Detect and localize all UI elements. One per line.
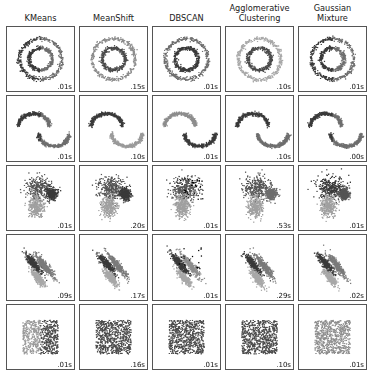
panel-wrap: .53s bbox=[223, 163, 296, 233]
panel-wrap: .17s bbox=[77, 233, 150, 303]
panel-wrap: .01s bbox=[4, 24, 77, 94]
column-header-agglomerative: Agglomerative Clustering bbox=[223, 0, 296, 24]
scatter-panel-uniform-noise-gaussian-mixture: .01s bbox=[298, 304, 367, 371]
grid-row-uniform-noise: .01s .16s .01s .10s .01s bbox=[4, 302, 369, 372]
timing-label: .02s bbox=[349, 292, 364, 300]
scatter-panel-noisy-circles-agglomerative: .10s bbox=[225, 26, 294, 93]
scatter-panel-aniso-blobs-dbscan: .01s bbox=[152, 234, 221, 301]
panel-wrap: .01s bbox=[296, 302, 369, 372]
panel-wrap: .01s bbox=[296, 24, 369, 94]
timing-label: .01s bbox=[203, 361, 218, 369]
column-header-gaussian-mixture: Gaussian Mixture bbox=[296, 0, 369, 24]
panel-wrap: .00s bbox=[296, 94, 369, 164]
scatter-panel-uniform-noise-meanshift: .16s bbox=[79, 304, 148, 371]
timing-label: .15s bbox=[130, 83, 145, 91]
timing-label: .01s bbox=[203, 222, 218, 230]
panel-wrap: .09s bbox=[4, 233, 77, 303]
scatter-panel-aniso-blobs-agglomerative: .29s bbox=[225, 234, 294, 301]
timing-label: .10s bbox=[276, 153, 291, 161]
timing-label: .16s bbox=[130, 361, 145, 369]
panel-wrap: .01s bbox=[150, 233, 223, 303]
scatter-panel-varied-blobs-gaussian-mixture: .01s bbox=[298, 165, 367, 232]
scatter-panel-varied-blobs-agglomerative: .53s bbox=[225, 165, 294, 232]
grid-row-varied-blobs: .01s .20s .01s .53s .01s bbox=[4, 163, 369, 233]
timing-label: .10s bbox=[276, 361, 291, 369]
scatter-panel-aniso-blobs-kmeans: .09s bbox=[6, 234, 75, 301]
timing-label: .10s bbox=[276, 83, 291, 91]
timing-label: .01s bbox=[57, 153, 72, 161]
column-header-kmeans: KMeans bbox=[4, 0, 77, 24]
timing-label: .01s bbox=[349, 361, 364, 369]
panel-wrap: .01s bbox=[150, 24, 223, 94]
timing-label: .01s bbox=[57, 361, 72, 369]
timing-label: .01s bbox=[349, 83, 364, 91]
grid-row-aniso-blobs: .09s .17s .01s .29s .02s bbox=[4, 233, 369, 303]
scatter-panel-noisy-moons-kmeans: .01s bbox=[6, 95, 75, 162]
panel-wrap: .16s bbox=[77, 302, 150, 372]
timing-label: .01s bbox=[203, 83, 218, 91]
panel-wrap: .01s bbox=[4, 94, 77, 164]
panel-wrap: .01s bbox=[150, 302, 223, 372]
scatter-panel-uniform-noise-kmeans: .01s bbox=[6, 304, 75, 371]
panel-grid: .01s .15s .01s .10s .01s .01s .10s .01s … bbox=[4, 24, 369, 372]
scatter-panel-noisy-moons-meanshift: .10s bbox=[79, 95, 148, 162]
timing-label: .53s bbox=[276, 222, 291, 230]
scatter-panel-noisy-moons-gaussian-mixture: .00s bbox=[298, 95, 367, 162]
scatter-panel-aniso-blobs-gaussian-mixture: .02s bbox=[298, 234, 367, 301]
panel-wrap: .10s bbox=[223, 94, 296, 164]
panel-wrap: .29s bbox=[223, 233, 296, 303]
panel-wrap: .01s bbox=[4, 302, 77, 372]
panel-wrap: .01s bbox=[150, 163, 223, 233]
column-header-row: KMeans MeanShift DBSCAN Agglomerative Cl… bbox=[4, 0, 369, 24]
panel-wrap: .15s bbox=[77, 24, 150, 94]
panel-wrap: .20s bbox=[77, 163, 150, 233]
timing-label: .17s bbox=[130, 292, 145, 300]
panel-wrap: .01s bbox=[4, 163, 77, 233]
timing-label: .01s bbox=[57, 222, 72, 230]
scatter-panel-noisy-circles-dbscan: .01s bbox=[152, 26, 221, 93]
timing-label: .09s bbox=[57, 292, 72, 300]
grid-row-noisy-moons: .01s .10s .01s .10s .00s bbox=[4, 94, 369, 164]
grid-row-noisy-circles: .01s .15s .01s .10s .01s bbox=[4, 24, 369, 94]
scatter-panel-varied-blobs-meanshift: .20s bbox=[79, 165, 148, 232]
scatter-panel-aniso-blobs-meanshift: .17s bbox=[79, 234, 148, 301]
panel-wrap: .10s bbox=[223, 24, 296, 94]
scatter-panel-noisy-moons-dbscan: .01s bbox=[152, 95, 221, 162]
panel-wrap: .01s bbox=[296, 163, 369, 233]
timing-label: .01s bbox=[349, 222, 364, 230]
timing-label: .29s bbox=[276, 292, 291, 300]
timing-label: .20s bbox=[130, 222, 145, 230]
timing-label: .00s bbox=[349, 153, 364, 161]
timing-label: .10s bbox=[130, 153, 145, 161]
scatter-panel-varied-blobs-dbscan: .01s bbox=[152, 165, 221, 232]
scatter-panel-noisy-circles-gaussian-mixture: .01s bbox=[298, 26, 367, 93]
scatter-panel-uniform-noise-dbscan: .01s bbox=[152, 304, 221, 371]
scatter-panel-uniform-noise-agglomerative: .10s bbox=[225, 304, 294, 371]
panel-wrap: .02s bbox=[296, 233, 369, 303]
timing-label: .01s bbox=[203, 153, 218, 161]
column-header-meanshift: MeanShift bbox=[77, 0, 150, 24]
column-header-dbscan: DBSCAN bbox=[150, 0, 223, 24]
timing-label: .01s bbox=[203, 292, 218, 300]
panel-wrap: .10s bbox=[77, 94, 150, 164]
panel-wrap: .10s bbox=[223, 302, 296, 372]
panel-wrap: .01s bbox=[150, 94, 223, 164]
scatter-panel-noisy-circles-kmeans: .01s bbox=[6, 26, 75, 93]
scatter-panel-noisy-circles-meanshift: .15s bbox=[79, 26, 148, 93]
clustering-comparison-figure: KMeans MeanShift DBSCAN Agglomerative Cl… bbox=[0, 0, 373, 374]
timing-label: .01s bbox=[57, 83, 72, 91]
scatter-panel-varied-blobs-kmeans: .01s bbox=[6, 165, 75, 232]
scatter-panel-noisy-moons-agglomerative: .10s bbox=[225, 95, 294, 162]
